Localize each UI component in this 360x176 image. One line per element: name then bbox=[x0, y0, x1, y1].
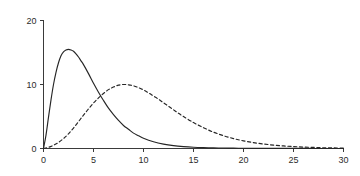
ticks-group bbox=[40, 21, 344, 153]
x-tick-label-0: 0 bbox=[41, 155, 46, 165]
plot-area: 01020051015202530 bbox=[0, 0, 360, 176]
series-group bbox=[44, 49, 344, 148]
x-tick-label-15: 15 bbox=[188, 155, 198, 165]
tick-labels-group: 01020051015202530 bbox=[26, 16, 348, 165]
x-tick-label-25: 25 bbox=[288, 155, 298, 165]
y-tick-label-10: 10 bbox=[26, 80, 36, 90]
x-tick-label-10: 10 bbox=[138, 155, 148, 165]
chart-figure: 01020051015202530 bbox=[0, 0, 360, 176]
axes-group bbox=[44, 21, 344, 149]
x-tick-label-20: 20 bbox=[238, 155, 248, 165]
x-tick-label-5: 5 bbox=[91, 155, 96, 165]
y-tick-label-0: 0 bbox=[31, 144, 36, 154]
series-path-solid-curve bbox=[44, 49, 344, 148]
y-tick-label-20: 20 bbox=[26, 16, 36, 26]
x-tick-label-30: 30 bbox=[338, 155, 348, 165]
series-path-dashed-curve bbox=[44, 84, 344, 148]
